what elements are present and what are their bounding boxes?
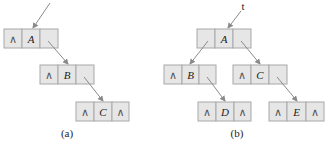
node-b-B: ∧ B: [164, 65, 216, 84]
node-value: C: [256, 69, 264, 81]
node-b-E: ∧ E ∧: [269, 102, 324, 121]
left-child-cell: [197, 29, 215, 48]
null-icon: ∧: [116, 106, 124, 119]
panel-a: ∧ A ∧ B ∧ C ∧ (a): [4, 3, 129, 140]
right-child-cell: [40, 29, 58, 48]
right-child-cell: [199, 65, 216, 84]
right-child-cell: [233, 29, 251, 48]
node-b-C: ∧ C: [233, 65, 287, 84]
null-icon: ∧: [238, 106, 246, 119]
node-a-B: ∧ B: [40, 65, 94, 84]
node-value: D: [220, 106, 229, 118]
null-icon: ∧: [274, 106, 282, 119]
caption-a: (a): [61, 127, 74, 140]
root-pointer-arrow-a: [33, 3, 50, 28]
null-icon: ∧: [169, 69, 177, 82]
node-value: B: [187, 69, 194, 81]
right-child-cell: [76, 65, 94, 84]
null-icon: ∧: [9, 33, 17, 46]
node-value: A: [220, 33, 228, 45]
node-value: C: [99, 106, 107, 118]
null-icon: ∧: [311, 106, 319, 119]
root-pointer-arrow-b: [228, 11, 241, 28]
node-value: E: [292, 106, 300, 118]
root-pointer-label: t: [241, 0, 244, 12]
right-child-cell: [269, 65, 287, 84]
binary-tree-diagram: ∧ A ∧ B ∧ C ∧ (a) t: [0, 0, 325, 146]
caption-b: (b): [231, 127, 244, 140]
node-value: A: [27, 33, 35, 45]
null-icon: ∧: [81, 106, 89, 119]
node-a-A: ∧ A: [4, 29, 58, 48]
null-icon: ∧: [45, 69, 53, 82]
node-b-D: ∧ D ∧: [198, 102, 251, 121]
null-icon: ∧: [238, 69, 246, 82]
node-value: B: [64, 69, 71, 81]
node-a-C: ∧ C ∧: [76, 102, 129, 121]
null-icon: ∧: [203, 106, 211, 119]
panel-b: t A ∧ B ∧ C: [164, 0, 324, 140]
